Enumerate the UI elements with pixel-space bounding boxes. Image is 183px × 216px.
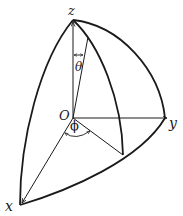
projection-line [73, 118, 123, 155]
phi-label: ϕ [70, 119, 79, 132]
arc-x-to-y [20, 118, 165, 205]
origin-label: O [59, 109, 70, 122]
z-axis-label: z [68, 4, 75, 17]
x-axis [22, 118, 73, 203]
radius-line [73, 37, 88, 118]
spherical-coordinates-diagram [0, 0, 183, 216]
theta-label: θ [75, 61, 82, 73]
x-axis-label: x [5, 199, 13, 213]
meridian-arc [73, 20, 123, 155]
y-axis-label: y [169, 116, 177, 130]
